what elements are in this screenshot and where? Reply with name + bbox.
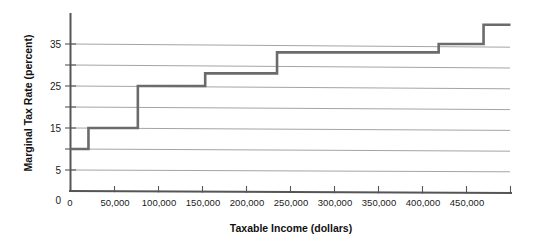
x-tick-label-250000: 250,000 <box>274 197 308 208</box>
x-tick-label-450000: 450,000 <box>450 197 484 208</box>
x-tick-label-350000: 350,000 <box>362 197 396 208</box>
y-tick-label-15: 15 <box>50 123 62 134</box>
y-axis-title: Marginal Tax Rate (percent) <box>22 35 34 172</box>
chart-background <box>0 0 539 245</box>
x-tick-label-150000: 150,000 <box>186 197 220 208</box>
marginal-tax-rate-step-chart: 35 25 15 5 0 0 50,000 100,000 150,000 <box>0 0 539 245</box>
chart-container: 35 25 15 5 0 0 50,000 100,000 150,000 <box>0 0 539 245</box>
y-tick-label-5: 5 <box>55 165 61 176</box>
x-tick-label-200000: 200,000 <box>230 197 264 208</box>
y-tick-label-25: 25 <box>50 81 62 92</box>
y-tick-label-0: 0 <box>55 195 61 206</box>
x-tick-label-50000: 50,000 <box>100 197 129 208</box>
y-tick-label-35: 35 <box>50 39 62 50</box>
x-tick-label-100000: 100,000 <box>142 197 176 208</box>
x-tick-label-300000: 300,000 <box>318 197 352 208</box>
x-tick-label-0: 0 <box>67 197 72 208</box>
x-axis-title: Taxable Income (dollars) <box>230 222 352 234</box>
x-tick-label-400000: 400,000 <box>406 197 440 208</box>
